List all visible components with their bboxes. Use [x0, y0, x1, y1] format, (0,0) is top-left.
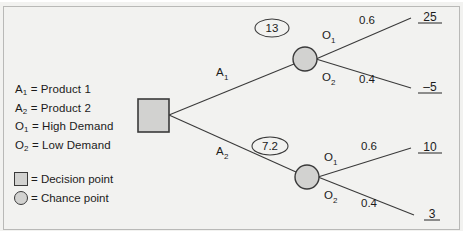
outcome-label-a2-o2-sub: 2: [333, 196, 338, 205]
branch-line-a1: [169, 64, 294, 115]
payoff-a1-o1: 25: [423, 10, 437, 24]
outcome-label-a2-o2-text: O: [324, 189, 333, 201]
legend-def-o2-text: = Low Demand: [32, 139, 111, 151]
probability-a1-o2: 0.4: [359, 73, 376, 85]
legend-def-a1-sub: 1: [23, 88, 28, 97]
chance-node-a2[interactable]: [295, 165, 319, 189]
outcome-label-a2-o1-sub: 1: [333, 158, 338, 167]
probability-a1-o1: 0.6: [359, 14, 375, 26]
outcome-label-a1-o2-sub: 2: [331, 78, 336, 87]
outcome-label-a2-o2: O 2: [324, 189, 338, 205]
branch-label-a2-text: A: [216, 145, 224, 157]
outcome-label-a1-o1: O 1: [322, 29, 336, 45]
ev-label-a1: 13: [266, 22, 279, 34]
square-icon: [14, 172, 28, 186]
chance-node-a1[interactable]: [293, 47, 317, 71]
legend-shape-chance: = Chance point: [14, 188, 113, 207]
legend-def-o2-symbol: O: [15, 139, 24, 151]
legend-def-o1-symbol: O: [15, 120, 24, 132]
legend-def-a2-symbol: A: [15, 102, 23, 114]
legend-def-o2: O2 = Low Demand: [15, 137, 113, 156]
probability-a2-o1: 0.6: [361, 140, 377, 152]
circle-icon: [14, 191, 28, 205]
legend-def-a1-symbol: A: [15, 83, 23, 95]
probability-a2-o2: 0.4: [361, 197, 378, 209]
payoff-a2-o2: 3: [429, 207, 436, 221]
outcome-label-a1-o1-sub: 1: [331, 36, 336, 45]
legend-def-o2-sub: 2: [24, 144, 29, 153]
branch-label-a1-sub: 1: [224, 73, 229, 82]
legend-definitions: A1 = Product 1 A2 = Product 2 O1 = High …: [15, 81, 113, 155]
legend-def-a1-text: = Product 1: [31, 83, 91, 95]
legend-def-a1: A1 = Product 1: [15, 81, 113, 100]
payoff-a2-o1: 10: [423, 140, 437, 154]
legend-def-a2: A2 = Product 2: [15, 100, 113, 119]
decision-node[interactable]: [138, 99, 169, 132]
legend-def-o1-sub: 1: [24, 125, 29, 134]
decision-tree-figure: 13 7.2 A 1 A 2 O 1 O 2 O 1 O 2 0.6: [0, 0, 463, 231]
outcome-label-a1-o1-text: O: [322, 29, 331, 41]
outcome-label-a2-o1-text: O: [324, 151, 333, 163]
payoff-a1-o2: –5: [423, 80, 437, 94]
branch-label-a1: A 1: [216, 66, 229, 82]
branch-label-a2: A 2: [216, 145, 229, 161]
legend-def-a2-text: = Product 2: [31, 102, 91, 114]
branch-label-a2-sub: 2: [224, 152, 229, 161]
ev-label-a2: 7.2: [262, 140, 278, 152]
outcome-label-a1-o2-text: O: [322, 71, 331, 83]
legend-shapes: = Decision point = Chance point: [14, 169, 113, 207]
legend-shape-decision: = Decision point: [14, 169, 113, 188]
legend-def-a2-sub: 2: [23, 107, 28, 116]
branch-label-a1-text: A: [216, 66, 224, 78]
outcome-label-a1-o2: O 2: [322, 71, 336, 87]
legend-def-o1-text: = High Demand: [32, 120, 114, 132]
legend-def-o1: O1 = High Demand: [15, 118, 113, 137]
legend-shape-decision-label: = Decision point: [31, 173, 113, 185]
outcome-label-a2-o1: O 1: [324, 151, 338, 167]
legend-shape-chance-label: = Chance point: [31, 192, 109, 204]
